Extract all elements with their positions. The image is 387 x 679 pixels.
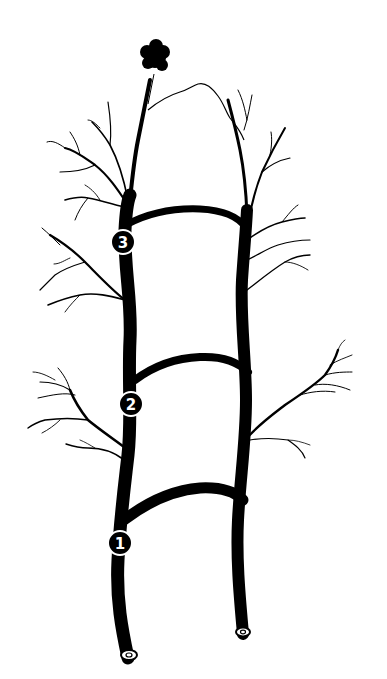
connection-3 (126, 209, 246, 228)
dark-cluster (140, 39, 170, 71)
marker-2-label: 2 (126, 396, 136, 414)
marker-1-label: 1 (115, 535, 125, 553)
left-branches (28, 102, 128, 460)
cross-connections (124, 209, 248, 520)
connection-2 (135, 357, 248, 380)
vessel-ladder-diagram: 1 2 3 (0, 0, 387, 679)
marker-3: 3 (111, 230, 135, 254)
connection-1 (124, 488, 243, 520)
left-trunk-end (121, 650, 137, 660)
marker-1: 1 (108, 531, 132, 555)
right-trunk-end (236, 628, 250, 637)
right-branches (238, 90, 352, 458)
marker-3-label: 3 (118, 234, 128, 252)
marker-2: 2 (119, 392, 143, 416)
